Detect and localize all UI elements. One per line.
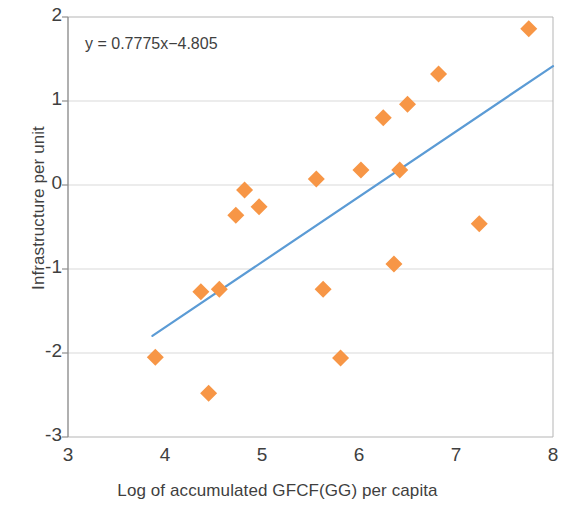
data-point xyxy=(430,66,447,83)
data-point xyxy=(520,20,537,37)
x-tick-label: 5 xyxy=(242,444,282,466)
x-axis-title: Log of accumulated GFCF(GG) per capita xyxy=(0,481,555,501)
data-points xyxy=(147,20,537,402)
x-tick-label: 3 xyxy=(48,444,88,466)
y-axis-ticks xyxy=(62,17,68,437)
data-point xyxy=(471,215,488,232)
data-point xyxy=(315,281,332,298)
data-point xyxy=(375,109,392,126)
data-point xyxy=(332,350,349,367)
x-tick-label: 8 xyxy=(533,444,563,466)
x-tick-label: 6 xyxy=(339,444,379,466)
data-point xyxy=(251,198,268,215)
data-point xyxy=(200,385,217,402)
trendline xyxy=(152,66,553,336)
data-point xyxy=(192,283,209,300)
data-point xyxy=(399,96,416,113)
x-tick-label: 7 xyxy=(436,444,476,466)
data-point xyxy=(236,182,253,199)
data-point xyxy=(391,161,408,178)
x-axis-tick-labels: 345678 xyxy=(0,444,555,474)
regression-equation-label: y = 0.7775x−4.805 xyxy=(85,35,218,53)
data-point xyxy=(227,207,244,224)
data-point xyxy=(385,255,402,272)
data-point xyxy=(147,349,164,366)
x-tick-label: 4 xyxy=(145,444,185,466)
data-point xyxy=(352,161,369,178)
